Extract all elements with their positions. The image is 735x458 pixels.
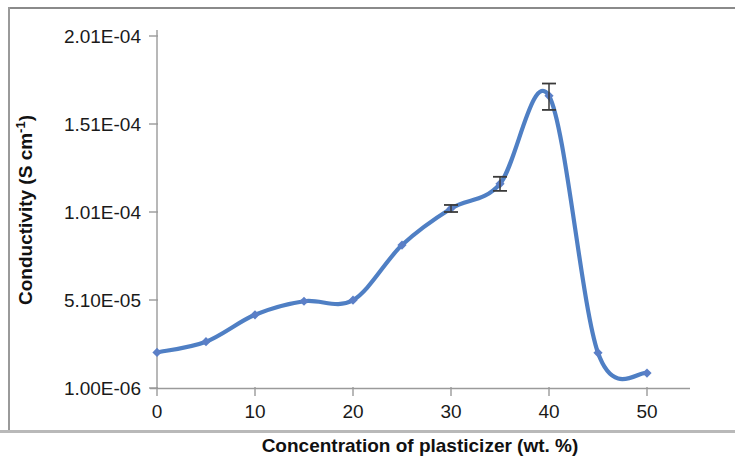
- y-axis-title-tail: ): [15, 115, 36, 121]
- y-tick-label: 1.51E-04: [64, 114, 142, 135]
- y-tick-label: 1.00E-06: [64, 378, 141, 399]
- x-tick-label: 50: [636, 401, 657, 422]
- conductivity-line-chart: 1.00E-065.10E-051.01E-041.51E-042.01E-04…: [0, 0, 735, 458]
- x-tick-label: 0: [152, 401, 163, 422]
- figure-container: 1.00E-065.10E-051.01E-041.51E-042.01E-04…: [0, 0, 735, 458]
- y-axis-title-superscript: -1: [13, 121, 28, 133]
- data-point-marker: [299, 297, 308, 306]
- data-point-marker: [152, 348, 161, 357]
- data-series-group: [152, 84, 651, 380]
- y-axis-ticks: 1.00E-065.10E-051.01E-041.51E-042.01E-04: [64, 26, 158, 399]
- x-tick-label: 20: [342, 401, 363, 422]
- axis-lines: [150, 30, 690, 389]
- data-point-marker: [642, 368, 651, 377]
- x-axis-title: Concentration of plasticizer (wt. %): [262, 435, 579, 456]
- x-tick-label: 10: [244, 401, 265, 422]
- series-line: [157, 91, 647, 379]
- y-axis-title: Conductivity (S cm-1): [13, 115, 36, 305]
- x-tick-label: 30: [440, 401, 461, 422]
- series-error-bars: [444, 84, 556, 212]
- y-tick-label: 1.01E-04: [64, 202, 142, 223]
- x-tick-label: 40: [538, 401, 559, 422]
- x-axis-ticks: 01020304050: [152, 387, 658, 422]
- y-tick-label: 5.10E-05: [64, 290, 141, 311]
- y-axis-title-main: Conductivity (S cm: [15, 133, 36, 305]
- y-tick-label: 2.01E-04: [64, 26, 142, 47]
